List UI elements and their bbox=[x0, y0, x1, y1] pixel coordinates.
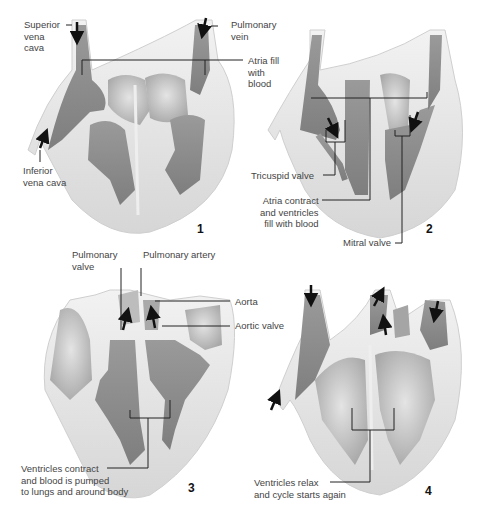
label-line: Atria fill bbox=[248, 55, 279, 67]
label-mitral-valve: Mitral valve bbox=[343, 237, 391, 249]
label-line: Pulmonary bbox=[72, 249, 117, 261]
label-ventricles-contract: Ventricles contract and blood is pumped … bbox=[21, 463, 128, 498]
label-line: vein bbox=[231, 31, 276, 43]
label-aorta: Aorta bbox=[235, 296, 258, 308]
label-line: and ventricles bbox=[260, 207, 319, 219]
label-atria-contract: Atria contract and ventricles fill with … bbox=[260, 195, 319, 230]
label-pulmonary-artery: Pulmonary artery bbox=[143, 249, 215, 261]
label-ventricles-relax: Ventricles relax and cycle starts again bbox=[254, 477, 346, 500]
label-line: and cycle starts again bbox=[254, 489, 346, 501]
label-line: cava bbox=[24, 42, 60, 54]
label-line: vena bbox=[24, 31, 60, 43]
label-aortic-valve: Aortic valve bbox=[235, 320, 284, 332]
label-inferior-vena-cava: Inferior vena cava bbox=[23, 165, 66, 188]
label-line: valve bbox=[72, 261, 117, 273]
label-line: with bbox=[248, 67, 279, 79]
label-tricuspid-valve: Tricuspid valve bbox=[251, 170, 314, 182]
label-pulmonary-vein: Pulmonary vein bbox=[231, 19, 276, 42]
label-line: Superior bbox=[24, 19, 60, 31]
label-line: Pulmonary bbox=[231, 19, 276, 31]
panel-number-1: 1 bbox=[197, 222, 204, 236]
label-line: fill with blood bbox=[260, 218, 319, 230]
label-pulmonary-valve: Pulmonary valve bbox=[72, 249, 117, 272]
panel-4-heart bbox=[275, 290, 461, 495]
label-line: vena cava bbox=[23, 177, 66, 189]
panel-number-3: 3 bbox=[188, 481, 195, 495]
label-line: Ventricles relax bbox=[254, 477, 346, 489]
label-line: Atria contract bbox=[260, 195, 319, 207]
label-superior-vena-cava: Superior vena cava bbox=[24, 19, 60, 54]
label-line: Ventricles contract bbox=[21, 463, 128, 475]
label-line: Inferior bbox=[23, 165, 66, 177]
label-line: blood bbox=[248, 78, 279, 90]
label-atria-fill: Atria fill with blood bbox=[248, 55, 279, 90]
panel-number-2: 2 bbox=[426, 222, 433, 236]
label-line: and blood is pumped bbox=[21, 475, 128, 487]
label-line: to lungs and around body bbox=[21, 486, 128, 498]
panel-number-4: 4 bbox=[425, 484, 432, 498]
